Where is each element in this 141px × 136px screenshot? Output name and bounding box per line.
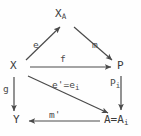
edge-label-m: m xyxy=(92,40,98,50)
edge-label-m-base: m xyxy=(92,39,98,50)
edge-label-f: f xyxy=(60,54,66,64)
node-y: Y xyxy=(13,114,20,125)
node-a-sub: i xyxy=(124,118,129,127)
node-x-a-sub: A xyxy=(62,12,67,21)
edge-label-m-prime-base: m' xyxy=(49,109,60,120)
edge-label-e-prime-sub: i xyxy=(75,83,80,92)
node-p-base: P xyxy=(117,59,124,72)
node-a-equals-a-i: A=Ai xyxy=(104,114,128,127)
edge-label-e: e xyxy=(33,40,39,50)
commutative-diagram: XA X P Y A=Ai e m f e'=ei Pi g m' xyxy=(0,0,141,136)
node-x-base: X xyxy=(10,59,17,72)
edge-label-m-prime: m' xyxy=(49,110,60,120)
edge-label-p-i: Pi xyxy=(110,78,120,90)
edge-label-g-base: g xyxy=(3,83,9,94)
node-p: P xyxy=(117,60,124,71)
edge-label-e-base: e xyxy=(33,39,39,50)
node-x-a-base: X xyxy=(55,7,62,20)
edge-label-e-prime: e'=ei xyxy=(52,80,79,92)
arrow-e xyxy=(26,27,60,60)
edge-label-f-base: f xyxy=(60,53,66,64)
edge-label-g: g xyxy=(3,84,9,94)
node-x-a: XA xyxy=(55,8,66,21)
node-a-base: A=A xyxy=(104,113,124,126)
node-x: X xyxy=(10,60,17,71)
edge-label-e-prime-base: e'=e xyxy=(52,79,75,90)
edge-label-p-i-sub: i xyxy=(116,81,121,90)
node-y-base: Y xyxy=(13,113,20,126)
